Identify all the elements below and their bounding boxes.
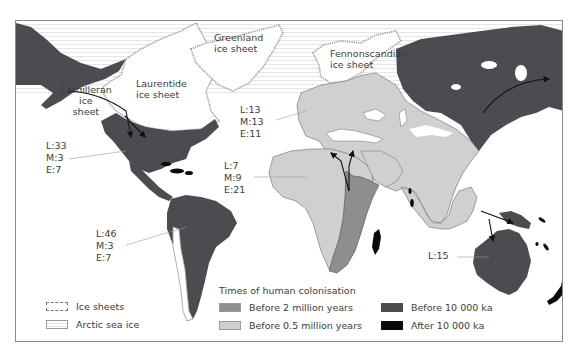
legend-ice-sheets: Ice sheets (46, 301, 124, 312)
fennoscandian-ice-label: Fennonscandian ice sheet (330, 48, 407, 70)
caribbean-island (170, 169, 184, 174)
caribbean-island (161, 162, 171, 166)
legend-before-2-million-label: Before 2 million years (249, 302, 353, 313)
pacific-island (538, 216, 546, 223)
pacific-island (535, 242, 538, 246)
europe-stats: L:13 M:13 E:11 (240, 104, 264, 140)
ice-sheets-swatch (46, 302, 68, 311)
stat-m: M:9 (224, 172, 245, 184)
africa-stats: L:7 M:9 E:21 (224, 160, 245, 196)
arctic-sea-ice-swatch (46, 320, 68, 329)
cordilleran-ice-label: Cordilleran ice sheet (60, 84, 112, 117)
south-america-stats: L:46 M:3 E:7 (96, 228, 117, 264)
legend-arctic-sea-ice-label: Arctic sea ice (76, 319, 139, 330)
legend-arctic-sea-ice: Arctic sea ice (46, 319, 139, 330)
colonisation-legend-title: Times of human colonisation (219, 285, 356, 296)
pacific-island (542, 243, 549, 251)
stat-e: E:7 (46, 164, 67, 176)
before-2-million-swatch (219, 303, 241, 312)
legend-after-10000ka: After 10 000 ka (381, 320, 484, 331)
legend-before-0-5-million: Before 0.5 million years (219, 320, 362, 331)
stat-m: M:13 (240, 116, 264, 128)
australia-stats: L:15 (428, 250, 449, 262)
after-10000ka-swatch (381, 321, 403, 330)
north-america-stats: L:33 M:3 E:7 (46, 140, 67, 176)
before-10000ka-swatch (381, 303, 403, 312)
stat-l: L:46 (96, 228, 117, 240)
caribbean-island (185, 171, 193, 175)
laurentide-ice-label: Laurentide ice sheet (136, 78, 187, 100)
lake (481, 61, 497, 69)
legend-before-2-million: Before 2 million years (219, 302, 353, 313)
before-0-5-million-swatch (219, 321, 241, 330)
stat-e: E:21 (224, 184, 245, 196)
legend-ice-sheets-label: Ice sheets (76, 301, 124, 312)
madagascar (372, 229, 381, 255)
lake (515, 65, 527, 81)
new-zealand (547, 271, 563, 305)
stat-l: L:7 (224, 160, 245, 172)
legend-before-10000ka: Before 10 000 ka (381, 302, 493, 313)
legend-before-0-5-million-label: Before 0.5 million years (249, 320, 362, 331)
stat-e: E:11 (240, 128, 264, 140)
greenland-ice-label: Greenland ice sheet (214, 32, 263, 54)
stat-m: M:3 (96, 240, 117, 252)
australia (473, 229, 531, 295)
legend-after-10000ka-label: After 10 000 ka (411, 320, 484, 331)
stat-m: M:3 (46, 152, 67, 164)
indian-ocean-island (409, 188, 412, 194)
stat-l: L:15 (428, 250, 449, 262)
indian-ocean-island (410, 199, 414, 207)
stat-e: E:7 (96, 252, 117, 264)
lake (451, 84, 461, 90)
legend-before-10000ka-label: Before 10 000 ka (411, 302, 493, 313)
leader-line (69, 151, 126, 159)
stat-l: L:13 (240, 104, 264, 116)
stat-l: L:33 (46, 140, 67, 152)
